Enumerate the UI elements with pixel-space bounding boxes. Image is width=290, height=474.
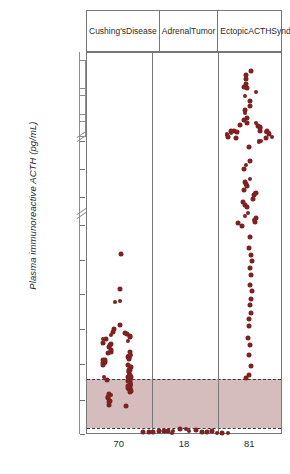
column-header-line: ACTH: [248, 26, 271, 36]
data-point: [141, 430, 146, 435]
sample-count-3: 81: [217, 438, 282, 454]
column-header-1: Cushing'sDisease: [87, 11, 159, 51]
y-tick-0-tick: [80, 434, 85, 435]
data-point: [248, 252, 253, 257]
data-point: [234, 136, 239, 141]
column-header-2: AdrenalTumor: [159, 11, 218, 51]
data-point: [123, 403, 128, 408]
data-point: [242, 167, 247, 172]
column-header-line: Cushing's: [89, 26, 126, 36]
data-point: [251, 196, 256, 201]
data-point: [128, 389, 133, 394]
data-point: [243, 94, 247, 98]
data-point: [246, 323, 251, 328]
data-point: [101, 362, 106, 367]
data-point: [242, 188, 247, 193]
dot-column-2: [152, 53, 217, 433]
data-point: [126, 339, 130, 343]
column-header-line: Tumor: [191, 26, 215, 36]
y-tick-100-tick: [80, 364, 85, 365]
y-tick-50-tick: [80, 400, 85, 401]
data-point: [247, 245, 252, 250]
plot-area: [86, 52, 282, 434]
data-point: [105, 351, 110, 356]
data-point: [245, 120, 250, 125]
data-point: [109, 333, 113, 337]
data-point: [247, 235, 252, 240]
data-point: [248, 159, 253, 164]
data-point: [248, 273, 253, 278]
column-header-row: Cushing'sDiseaseAdrenalTumorEctopicACTHS…: [86, 10, 282, 52]
data-point: [247, 283, 252, 288]
data-point: [246, 353, 251, 358]
data-point: [237, 122, 242, 127]
data-point: [170, 431, 174, 435]
y-tick-250-tick: [80, 260, 85, 261]
data-point: [117, 286, 122, 291]
data-point: [264, 135, 269, 140]
data-point: [247, 265, 252, 270]
data-point: [101, 340, 106, 345]
data-point: [246, 316, 251, 321]
y-tick-500-tick: [80, 197, 85, 198]
data-point: [147, 430, 152, 435]
column-header-line: Syndrome: [271, 26, 290, 36]
data-point: [247, 145, 252, 150]
y-tick-700-tick: [80, 169, 85, 170]
data-point: [104, 378, 109, 383]
data-point: [118, 322, 123, 327]
sample-count-row: 701881: [86, 438, 282, 454]
data-point: [118, 299, 122, 303]
data-point: [248, 177, 252, 181]
data-point: [247, 104, 252, 109]
data-point: [249, 363, 254, 368]
y-axis-title: Plasma immunoreactive ACTH (pg/mL): [27, 96, 38, 316]
data-point: [126, 357, 131, 362]
data-point: [252, 220, 257, 225]
data-point: [119, 252, 124, 257]
data-point: [177, 426, 182, 431]
data-point: [243, 214, 247, 218]
column-header-line: Adrenal: [162, 26, 191, 36]
data-point: [270, 135, 274, 139]
dot-column-1: [87, 53, 152, 433]
data-point: [250, 258, 255, 263]
data-point: [249, 289, 254, 294]
dot-column-3: [218, 53, 283, 433]
data-point: [193, 428, 198, 433]
data-point: [257, 139, 261, 143]
y-tick-150-tick: [80, 329, 85, 330]
data-point: [249, 69, 254, 74]
y-tick-300-tick: [80, 225, 85, 226]
data-point: [187, 429, 191, 433]
data-point: [258, 128, 263, 133]
column-header-line: Ectopic: [220, 26, 248, 36]
sample-count-1: 70: [86, 438, 151, 454]
data-point: [204, 429, 209, 434]
data-point: [113, 300, 117, 304]
data-point: [244, 86, 249, 91]
data-point: [234, 129, 239, 134]
data-point: [247, 342, 252, 347]
data-point: [254, 90, 258, 94]
data-point: [162, 428, 167, 433]
data-point: [244, 376, 249, 381]
data-point: [246, 335, 251, 340]
data-point: [247, 303, 252, 308]
data-point: [107, 402, 112, 407]
data-point: [240, 224, 244, 228]
data-point: [248, 297, 253, 302]
y-axis: [79, 52, 81, 434]
data-point: [245, 205, 250, 210]
y-tick-200-tick: [80, 294, 85, 295]
y-tick-900-tick: [80, 141, 85, 142]
data-point: [249, 311, 254, 316]
column-header-3: EctopicACTHSyndrome: [217, 11, 290, 51]
sample-count-2: 18: [151, 438, 216, 454]
column-header-line: Disease: [126, 26, 157, 36]
data-point: [156, 429, 161, 434]
acth-dot-plot: Plasma immunoreactive ACTH (pg/mL) Cushi…: [0, 0, 290, 474]
data-point: [226, 135, 231, 140]
